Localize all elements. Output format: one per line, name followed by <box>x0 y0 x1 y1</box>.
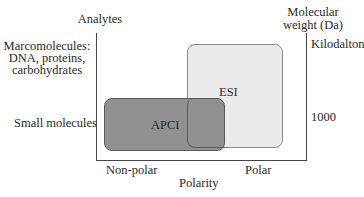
right-axis-line <box>306 33 307 161</box>
apci-label: APCI <box>151 119 179 132</box>
molecular-weight-title-line2: weight (Da) <box>270 19 356 32</box>
1000-label: 1000 <box>311 111 336 124</box>
esi-outline-overlap <box>187 98 225 148</box>
small-molecules-label: Small molecules <box>14 117 97 130</box>
bottom-axis-line <box>96 160 307 161</box>
kilodalton-label: Kilodalton <box>311 38 364 51</box>
polarity-axis-title: Polarity <box>179 177 219 190</box>
esi-label: ESI <box>219 86 238 99</box>
left-axis-line <box>96 33 97 161</box>
polar-label: Polar <box>245 164 271 177</box>
analytes-axis-title: Analytes <box>60 13 140 26</box>
non-polar-label: Non-polar <box>106 164 157 177</box>
macromolecules-examples-line2: carbohydrates <box>2 64 92 77</box>
